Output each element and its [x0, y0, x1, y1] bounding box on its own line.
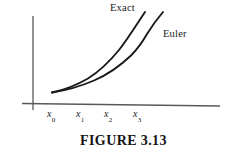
x-tick-base-0: x [47, 108, 51, 119]
x-tick-sub-2: 2 [109, 116, 113, 124]
x-tick-base-2: x [104, 108, 108, 119]
x-tick-sub-3: 3 [138, 116, 142, 124]
x-tick-label-0: x0 [47, 108, 55, 119]
x-tick-sub-1: 1 [81, 116, 85, 124]
x-tick-label-3: x3 [133, 108, 141, 119]
x-tick-label-1: x1 [76, 108, 84, 119]
curve-label-exact: Exact [110, 2, 135, 13]
x-tick-sub-0: 0 [52, 116, 56, 124]
figure-container: Exact Euler x0 x1 x2 x3 FIGURE 3.13 [0, 0, 247, 156]
curve-label-euler: Euler [163, 28, 187, 39]
x-axis [22, 104, 220, 107]
curves-group [52, 12, 163, 93]
curve-euler [52, 12, 163, 93]
axes-group [22, 16, 220, 110]
figure-caption: FIGURE 3.13 [0, 133, 247, 149]
x-tick-base-1: x [76, 108, 80, 119]
x-tick-base-3: x [133, 108, 137, 119]
x-tick-label-2: x2 [104, 108, 112, 119]
curve-exact [52, 12, 145, 93]
